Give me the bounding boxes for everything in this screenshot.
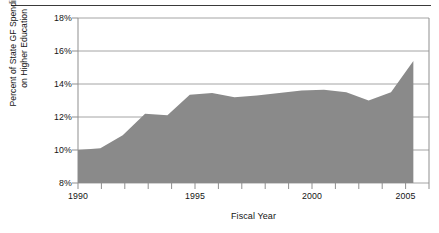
area-series	[78, 61, 413, 183]
y-axis-ticks	[72, 18, 78, 183]
chart-canvas	[0, 0, 439, 233]
x-tick-label-1995: 1995	[185, 191, 205, 201]
area-series-polygon	[78, 61, 413, 183]
x-tick-label-2000: 2000	[302, 191, 322, 201]
x-axis-ticks	[78, 183, 429, 189]
x-tick-label-2005: 2005	[396, 191, 416, 201]
x-tick-label-1990: 1990	[68, 191, 88, 201]
chart-figure: Percent of State GF Spending on Higher E…	[0, 0, 439, 233]
x-axis-label: Fiscal Year	[78, 211, 429, 221]
